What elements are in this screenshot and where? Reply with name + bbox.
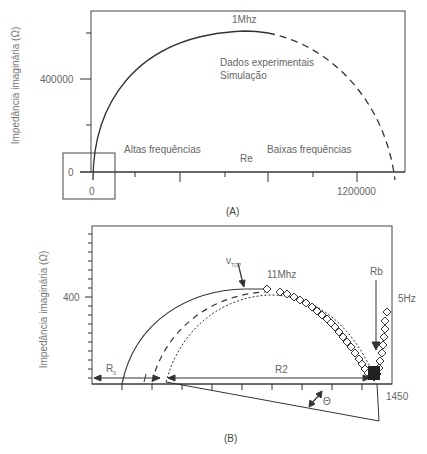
legend-experimental: Dados experimentais <box>220 58 314 68</box>
panel-b-x-tick-1450: 1450 <box>386 392 408 402</box>
panel-a-y-axis-label: Impedância imaginária (Ω) <box>10 21 21 151</box>
theta-label: Θ <box>323 397 331 407</box>
legend-simulation: Simulação <box>220 71 267 81</box>
panel-a-x-tick-0: 0 <box>89 187 95 197</box>
panel-a-y-tick-400000: 400000 <box>40 75 73 85</box>
panel-b-caption: (B) <box>224 433 237 444</box>
high-frequency-11mhz-label: 11Mhz <box>267 270 296 280</box>
panel-a-plot <box>63 11 405 199</box>
dense-data-cluster <box>368 366 380 380</box>
high-frequency-label: Altas frequências <box>124 145 201 155</box>
vtop-subscript: TOP <box>231 262 241 268</box>
rb-label: Rb <box>370 267 383 277</box>
panel-a-y-tick-0: 0 <box>68 168 74 178</box>
r2-label: R2 <box>275 365 288 375</box>
impedance-diagram <box>0 0 427 454</box>
r0-label: R0 <box>106 364 116 376</box>
x-axis-label-re: Re <box>240 154 253 164</box>
r0-subscript: 0 <box>113 370 116 376</box>
panel-a-x-tick-1200000: 1200000 <box>337 187 376 197</box>
panel-b-y-axis-label: Impedância imaginária (Ω) <box>38 245 49 375</box>
panel-b-y-tick-400: 400 <box>63 293 80 303</box>
low-frequency-5hz-label: 5Hz <box>398 294 416 304</box>
vtop-label: νTOP <box>226 256 241 268</box>
peak-frequency-label: 1Mhz <box>232 15 256 25</box>
panel-a-caption: (A) <box>226 206 239 217</box>
low-frequency-label: Baixas frequências <box>267 145 352 155</box>
